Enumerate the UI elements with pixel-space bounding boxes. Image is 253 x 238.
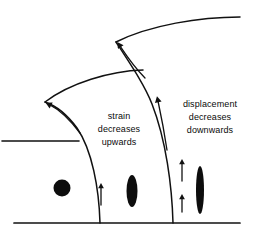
displacement-label-line-3: downwards — [172, 124, 248, 137]
strain-label-line-1: strain — [88, 110, 150, 123]
strain-annotation-label: strain decreases upwards — [88, 110, 150, 149]
high-strain-ellipse-marker — [196, 166, 204, 214]
strain-label-line-3: upwards — [88, 136, 150, 149]
strain-label-line-2: decreases — [88, 123, 150, 136]
upper-cell-top-arc — [116, 17, 240, 42]
displacement-annotation-label: displacement decreases downwards — [172, 98, 248, 137]
displacement-label-line-2: decreases — [172, 111, 248, 124]
marker-displacement-arrows — [101, 163, 182, 212]
left-cell-top-arc — [45, 70, 143, 102]
shear-zone-diagram: strain decreases upwards displacement de… — [0, 0, 253, 238]
displacement-label-line-1: displacement — [172, 98, 248, 111]
left-displacement-arrow — [50, 105, 80, 133]
undeformed-circle-marker — [54, 180, 71, 197]
upper-displacement-arrow — [120, 46, 145, 78]
moderate-strain-ellipse-marker — [127, 175, 138, 207]
